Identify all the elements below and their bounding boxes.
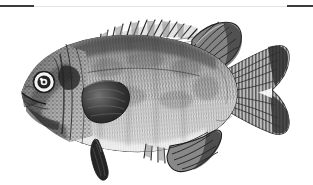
rule-hairline — [14, 6, 299, 7]
fish-engraving-svg — [0, 8, 313, 185]
rule-segment-left — [0, 5, 34, 7]
fish-illustration — [0, 8, 313, 185]
scanned-page — [0, 0, 313, 185]
rule-segment-right — [287, 5, 313, 7]
scan-grain — [0, 8, 313, 185]
